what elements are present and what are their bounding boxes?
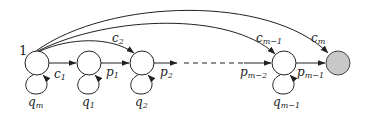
label-qm: qm xyxy=(28,96,43,110)
label-qm-base: q xyxy=(28,95,36,109)
label-cm-base: c xyxy=(311,31,318,45)
label-qm-sub: m xyxy=(36,101,44,110)
label-q1: q1 xyxy=(82,96,95,110)
label-c1: c1 xyxy=(54,68,66,82)
loop-q1 xyxy=(78,75,99,94)
label-p1: p1 xyxy=(106,66,119,80)
arc-cm1 xyxy=(38,23,275,54)
start-label: 1 xyxy=(19,44,27,57)
state-node-2 xyxy=(130,51,154,75)
label-cm: cm xyxy=(311,32,325,46)
label-cm1-base: c xyxy=(256,31,263,45)
label-p2-sub: 2 xyxy=(168,71,173,80)
label-pm2: pm−2 xyxy=(240,66,267,80)
label-q2: q2 xyxy=(135,96,148,110)
loop-qm xyxy=(26,75,47,94)
label-c1-base: c xyxy=(54,67,61,81)
label-q1-sub: 1 xyxy=(90,101,95,110)
loop-qm1 xyxy=(273,75,294,94)
state-node-final xyxy=(326,51,350,75)
label-cm1: cm−1 xyxy=(256,32,282,46)
label-qm1: qm−1 xyxy=(273,96,300,110)
diagram-graphics xyxy=(0,0,367,114)
label-pm1: pm−1 xyxy=(297,66,324,80)
label-pm2-sub: m−2 xyxy=(248,71,267,80)
label-c2-sub: 2 xyxy=(119,37,124,46)
label-q2-sub: 2 xyxy=(143,101,148,110)
state-node-start xyxy=(25,51,49,75)
label-c2: c2 xyxy=(112,32,124,46)
label-p2-base: p xyxy=(160,65,168,79)
label-c1-sub: 1 xyxy=(61,73,66,82)
loop-q2 xyxy=(131,75,152,94)
label-q2-base: q xyxy=(135,95,143,109)
label-p1-base: p xyxy=(106,65,114,79)
arc-cm xyxy=(36,10,328,53)
markov-chain-diagram: 1 c1 c2 cm−1 cm p1 p2 pm−2 pm−1 qm q1 q2… xyxy=(0,0,367,114)
label-pm2-base: p xyxy=(240,65,248,79)
state-node-m-1 xyxy=(272,51,296,75)
label-q1-base: q xyxy=(82,95,90,109)
label-c2-base: c xyxy=(112,31,119,45)
label-qm1-base: q xyxy=(273,95,281,109)
label-pm1-base: p xyxy=(297,65,305,79)
label-qm1-sub: m−1 xyxy=(281,101,300,110)
label-cm-sub: m xyxy=(318,37,326,46)
state-node-1 xyxy=(77,51,101,75)
label-p1-sub: 1 xyxy=(114,71,119,80)
label-cm1-sub: m−1 xyxy=(263,37,282,46)
label-p2: p2 xyxy=(160,66,173,80)
label-pm1-sub: m−1 xyxy=(305,71,324,80)
